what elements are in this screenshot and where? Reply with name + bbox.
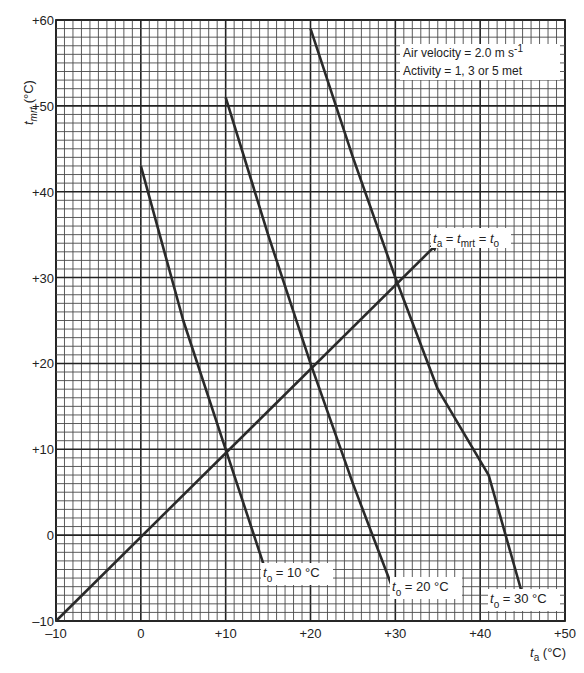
x-tick-label: +30: [384, 626, 406, 641]
x-tick-label: +40: [469, 626, 491, 641]
x-axis-label: ta (°C): [530, 645, 566, 663]
air-velocity-label: Air velocity = 2.0 m s-1: [403, 43, 523, 60]
y-tick-label: +10: [32, 442, 54, 457]
activity-label: Activity = 1, 3 or 5 met: [403, 64, 523, 78]
x-tick-label: +20: [299, 626, 321, 641]
y-tick-label: +20: [32, 356, 54, 371]
x-tick-label: 0: [137, 626, 144, 641]
y-tick-label: –10: [32, 614, 54, 629]
diagonal-label: ta = tmrt = to: [431, 228, 511, 249]
x-tick-label: +50: [554, 626, 576, 641]
y-tick-label: +40: [32, 185, 54, 200]
comfort-chart: –100+10+20+30+40+50 –100+10+20+30+40+50+…: [0, 0, 584, 673]
info-box: Air velocity = 2.0 m s-1 Activity = 1, 3…: [400, 43, 560, 80]
y-tick-label: +30: [32, 271, 54, 286]
y-tick-label: 0: [47, 528, 54, 543]
x-axis-ticks: –100+10+20+30+40+50: [45, 626, 576, 641]
plot-grid: [56, 20, 565, 621]
x-tick-label: +10: [215, 626, 237, 641]
y-tick-label: +60: [32, 13, 54, 28]
